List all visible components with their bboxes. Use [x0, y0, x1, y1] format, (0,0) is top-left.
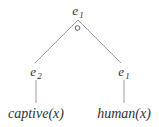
right-child-node: e1	[118, 65, 129, 81]
root-node-subscript: 1	[79, 10, 84, 20]
right-leaf: human(x)	[97, 107, 151, 121]
circle-marker-icon	[75, 26, 80, 31]
left-child-subscript: 2	[37, 71, 42, 81]
left-child-node: e2	[30, 65, 41, 81]
left-child-label: e	[30, 64, 36, 79]
right-child-label: e	[118, 64, 124, 79]
root-node-label: e	[72, 3, 78, 18]
tree-diagram: e1 e2 e1 captive(x) human(x)	[0, 0, 159, 127]
edge-root-to-right	[78, 20, 121, 63]
left-leaf: captive(x)	[8, 107, 64, 121]
right-child-subscript: 1	[125, 71, 130, 81]
root-node: e1	[72, 4, 83, 20]
edge-root-to-left	[35, 20, 78, 63]
